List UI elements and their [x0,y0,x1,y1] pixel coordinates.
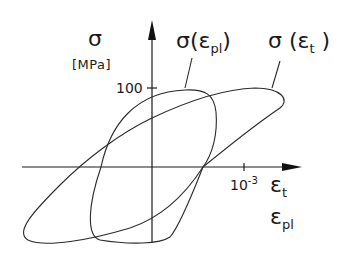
y-tick-label: 100 [116,81,143,95]
y-axis-symbol: σ [88,28,102,50]
y-axis-unit: [MPa] [72,58,111,71]
x-tick-exponent: -3 [248,175,258,186]
hysteresis-diagram: σ [MPa] 100 10-3 εt εpl σ(εpl) σ (εt ) [0,0,344,259]
y-axis-arrow-icon [148,20,156,40]
x-tick-base: 10 [230,177,248,193]
leader-total [272,61,280,88]
curve-label-plastic: σ(εpl) [176,30,231,52]
curve-label-total: σ (εt ) [268,30,330,52]
x-axis-label-total: εt [270,174,287,196]
x-axis-arrow-icon [282,163,302,171]
curve-total-loop [24,88,285,243]
x-axis-label-plastic: εpl [270,206,294,228]
x-tick-label: 10-3 [230,178,258,192]
leader-plastic [185,58,192,88]
